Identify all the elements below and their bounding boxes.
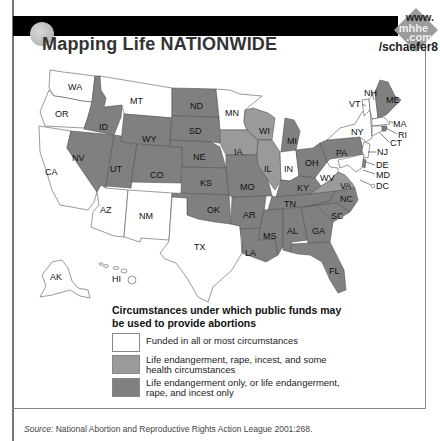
state-MA[interactable]	[372, 117, 390, 126]
label-TX: TX	[194, 242, 206, 252]
state-MI[interactable]	[281, 118, 300, 152]
label-AZ: AZ	[100, 205, 112, 215]
legend-swatch-dark-gray	[112, 378, 140, 397]
label-MS: MS	[263, 231, 277, 241]
label-DE: DE	[376, 160, 389, 170]
source-text: National Abortion and Reproductive Right…	[53, 424, 312, 434]
legend-swatch-medium-gray	[112, 355, 140, 374]
label-MN: MN	[225, 108, 239, 118]
label-NM: NM	[139, 211, 153, 221]
legend-title: Circumstances under which public funds m…	[112, 304, 352, 330]
source-citation: Source: National Abortion and Reproducti…	[24, 424, 312, 434]
label-MI: MI	[287, 136, 297, 146]
state-CT[interactable]	[372, 126, 382, 136]
label-OR: OR	[55, 109, 69, 119]
label-AR: AR	[243, 210, 256, 220]
label-IA: IA	[234, 147, 243, 157]
label-OK: OK	[207, 205, 220, 215]
legend-item-funded-all: Funded in all or most circumstances	[112, 333, 352, 352]
legend-item-life-only: Life endangerment only, or life endanger…	[112, 378, 352, 398]
label-NY: NY	[351, 127, 364, 137]
label-DC: DC	[376, 181, 389, 191]
label-AK: AK	[50, 272, 62, 282]
label-MD: MD	[376, 170, 390, 180]
label-CA: CA	[45, 167, 58, 177]
legend-label: Funded in all or most circumstances	[146, 336, 298, 346]
label-SD: SD	[189, 126, 202, 136]
label-OH: OH	[305, 158, 319, 168]
state-RI[interactable]	[382, 126, 387, 131]
legend-swatch-white	[112, 333, 140, 352]
legend-item-health: Life endangerment, rape, incest, and som…	[112, 355, 352, 375]
label-KY: KY	[297, 183, 309, 193]
label-ND: ND	[190, 101, 203, 111]
label-ME: ME	[386, 95, 400, 105]
label-UT: UT	[110, 164, 122, 174]
label-VA: VA	[340, 181, 351, 191]
label-NH: NH	[364, 88, 377, 98]
source-prefix: Source:	[24, 424, 53, 434]
legend-label: Life endangerment, rape, incest, and som…	[146, 355, 352, 375]
label-WY: WY	[142, 134, 157, 144]
label-HI: HI	[112, 274, 121, 284]
label-GA: GA	[312, 226, 325, 236]
label-MT: MT	[130, 96, 143, 106]
label-NJ: NJ	[377, 147, 388, 157]
label-LA: LA	[245, 248, 256, 258]
label-IL: IL	[264, 164, 272, 174]
state-DC[interactable]	[371, 184, 375, 188]
label-CT: CT	[390, 138, 402, 148]
label-NV: NV	[72, 153, 85, 163]
map-legend: Circumstances under which public funds m…	[112, 304, 352, 398]
label-MA: MA	[393, 119, 407, 129]
label-NC: NC	[340, 194, 353, 204]
legend-label: Life endangerment only, or life endanger…	[146, 378, 352, 398]
label-TN: TN	[284, 199, 296, 209]
label-VT: VT	[349, 99, 361, 109]
label-FL: FL	[329, 266, 340, 276]
label-WV: WV	[320, 173, 335, 183]
label-WA: WA	[68, 82, 82, 92]
label-AL: AL	[287, 226, 298, 236]
label-PA: PA	[336, 148, 347, 158]
label-CO: CO	[150, 170, 164, 180]
label-NE: NE	[193, 152, 206, 162]
label-WI: WI	[259, 126, 270, 136]
label-SC: SC	[331, 211, 344, 221]
label-IN: IN	[284, 164, 293, 174]
state-AK[interactable]	[40, 260, 90, 298]
label-ID: ID	[99, 122, 109, 132]
label-MO: MO	[240, 182, 255, 192]
label-KS: KS	[200, 178, 212, 188]
